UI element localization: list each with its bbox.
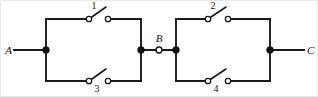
switch-2-label: 2 [211, 0, 216, 11]
terminal-b-label: B [156, 32, 163, 44]
terminal-a-label: A [4, 44, 12, 56]
switch-4-label: 4 [214, 83, 219, 94]
switch-1[interactable]: 1 [86, 0, 110, 22]
switch-2-fixed-contact[interactable] [225, 16, 230, 21]
switch-3[interactable]: 3 [86, 69, 110, 94]
node-a[interactable] [43, 47, 50, 54]
node-right-block-in[interactable] [173, 47, 180, 54]
switch-4[interactable]: 4 [205, 69, 230, 94]
circuit-schematic: 1 3 2 4 A B C [0, 0, 318, 97]
switch-1-label: 1 [92, 0, 97, 11]
node-left-block-out[interactable] [138, 47, 145, 54]
node-c[interactable] [267, 47, 274, 54]
switch-3-pivot-contact[interactable] [86, 78, 91, 83]
switch-2-pivot-contact[interactable] [205, 16, 210, 21]
terminal-c-label: C [307, 44, 315, 56]
switch-3-label: 3 [95, 83, 100, 94]
switch-1-fixed-contact[interactable] [105, 16, 110, 21]
switch-4-pivot-contact[interactable] [205, 78, 210, 83]
node-b-terminal[interactable] [156, 47, 162, 53]
switch-1-pivot-contact[interactable] [86, 16, 91, 21]
circuit-diagram-figure: 1 3 2 4 A B C [0, 0, 318, 97]
switch-2[interactable]: 2 [205, 0, 230, 22]
switch-4-fixed-contact[interactable] [225, 78, 230, 83]
switch-3-fixed-contact[interactable] [105, 78, 110, 83]
